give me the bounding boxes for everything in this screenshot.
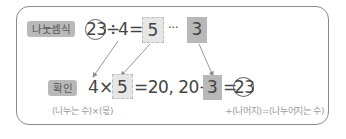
caption-left: (나누는 수)×(몫) [52, 104, 113, 117]
check-remainder-box: 3 [203, 75, 222, 100]
check-divisor: 4 [88, 77, 98, 97]
check-result: 23 [234, 77, 255, 97]
check-quotient-box: 5 [112, 74, 133, 99]
arrow-remainder [199, 44, 213, 76]
arrows [0, 0, 346, 139]
arrow-quotient [121, 44, 150, 76]
times-operator: × [99, 77, 113, 97]
check-mid-text: =20, 20+ [134, 77, 213, 97]
arrow-dividend-to-divisor [93, 41, 118, 77]
caption-right: +(나머지)=(나누어지는 수) [225, 104, 324, 117]
check-label: 확인 [48, 80, 77, 96]
